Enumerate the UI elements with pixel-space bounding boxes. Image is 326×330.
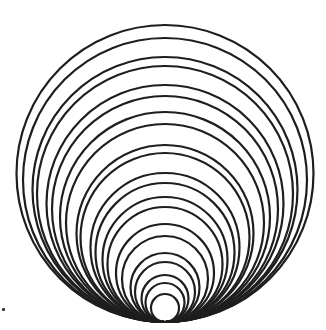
stray-dot: [2, 308, 5, 311]
circle-15: [116, 224, 214, 322]
circle-21: [151, 294, 179, 322]
circle-17: [131, 253, 200, 322]
circle-16: [122, 236, 208, 322]
circles-canvas: [0, 0, 326, 330]
circle-18: [135, 262, 195, 322]
nested-tangent-circles-diagram: [0, 0, 326, 330]
